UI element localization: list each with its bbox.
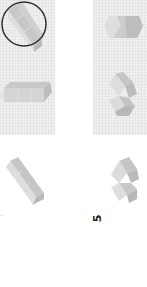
option-label-right: 5 <box>91 215 104 223</box>
option-d-shape[interactable] <box>105 70 145 120</box>
option-a-shape[interactable] <box>0 0 52 55</box>
option-e-shape[interactable] <box>4 155 48 207</box>
option-f-shape[interactable] <box>107 155 145 207</box>
option-label-left: ' <box>0 215 6 217</box>
option-b-shape[interactable] <box>0 80 55 110</box>
option-c-shape[interactable] <box>103 12 145 42</box>
